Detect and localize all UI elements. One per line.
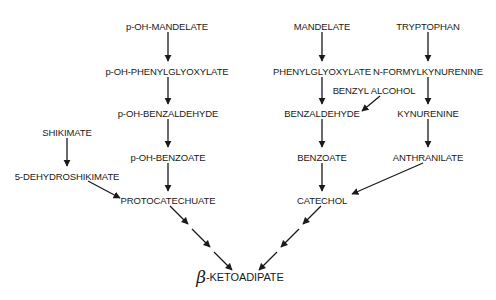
node-protocatechuate: PROTOCATECHUATE [120, 195, 215, 206]
node-benzoate: BENZOATE [297, 152, 347, 163]
arrow-protocatechuate-step-1 [170, 206, 188, 224]
final-label: -KETOADIPATE [206, 271, 284, 283]
node-p-oh-mandelate: p-OH-MANDELATE [126, 21, 208, 32]
node-tryptophan: TRYPTOPHAN [396, 21, 460, 32]
node-beta-ketoadipate: β-KETOADIPATE [196, 267, 283, 287]
node-anthranilate: ANTHRANILATE [393, 152, 463, 163]
arrows-layer [0, 0, 496, 300]
node-p-oh-benzaldehyde: p-OH-BENZALDEHYDE [118, 108, 219, 119]
node-catechol: CATECHOL [297, 195, 347, 206]
arrow-catechol-step-2 [281, 229, 299, 247]
node-p-oh-benzoate: p-OH-BENZOATE [130, 152, 205, 163]
node-benzaldehyde: BENZALDEHYDE [284, 108, 359, 119]
arrow-catechol-step-1 [303, 206, 321, 224]
pathway-diagram: p-OH-MANDELATE p-OH-PHENYLGLYOXYLATE p-O… [0, 0, 496, 300]
node-phenylglyoxylate: PHENYLGLYOXYLATE [273, 66, 371, 77]
node-n-formylkynurenine: N-FORMYLKYNURENINE [373, 66, 483, 77]
arrow-protocatechuate-step-2 [192, 229, 210, 247]
arrow-anthranilate-to-catechol [352, 163, 423, 194]
node-kynurenine: KYNURENINE [397, 108, 458, 119]
arrow-benzyl-alcohol-to-benzaldehyde [362, 96, 380, 111]
node-shikimate: SHIKIMATE [42, 127, 92, 138]
node-benzyl-alcohol: BENZYL ALCOHOL [333, 85, 416, 96]
node-mandelate: MANDELATE [294, 21, 350, 32]
node-5-dehydroshikimate: 5-DEHYDROSHIKIMATE [15, 171, 120, 182]
node-p-oh-phenylglyoxylate: p-OH-PHENYLGLYOXYLATE [105, 66, 228, 77]
arrow-dehydroshikimate-to-protocatechuate [88, 181, 120, 198]
beta-symbol: β [196, 267, 206, 287]
